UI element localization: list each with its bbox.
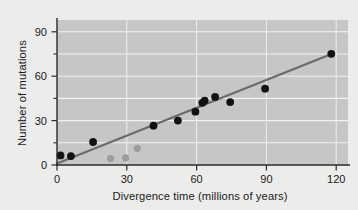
scatter-chart-figure: 90 60 30 0 0 30 60 90 120 Divergence tim… (0, 0, 358, 210)
data-point (57, 152, 65, 160)
data-point (226, 98, 234, 106)
data-point-outlier (134, 145, 141, 152)
y-axis-title: Number of mutations (16, 40, 28, 146)
data-point (327, 50, 335, 58)
x-axis-title: Divergence time (millions of years) (112, 190, 287, 202)
data-point (174, 117, 182, 125)
x-tick-label-120: 120 (327, 173, 345, 185)
data-point (67, 152, 75, 160)
x-tick-label-30: 30 (121, 173, 133, 185)
data-point (89, 138, 97, 146)
y-tick-label-0: 0 (41, 159, 47, 171)
data-point (261, 85, 269, 93)
data-point-outlier (107, 155, 114, 162)
data-point-outlier (122, 154, 129, 161)
data-point (201, 97, 209, 105)
x-tick-label-60: 60 (190, 173, 202, 185)
data-point (211, 93, 219, 101)
x-tick-label-0: 0 (54, 173, 60, 185)
y-tick-label-30: 30 (35, 115, 47, 127)
x-tick-label-90: 90 (260, 173, 272, 185)
data-point (150, 122, 158, 130)
data-point (192, 108, 200, 116)
y-tick-label-60: 60 (35, 70, 47, 82)
y-tick-label-90: 90 (35, 26, 47, 38)
